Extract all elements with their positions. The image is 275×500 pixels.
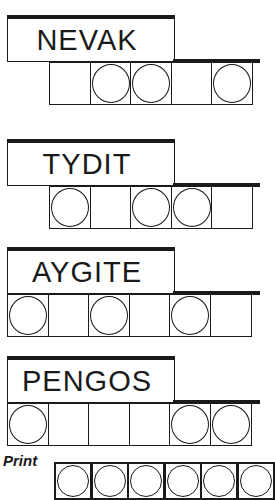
circle-icon bbox=[132, 188, 170, 227]
circle-icon bbox=[171, 296, 209, 335]
scrambled-word: TYDIT bbox=[43, 148, 140, 181]
circle-icon bbox=[213, 64, 251, 103]
circle-icon bbox=[240, 465, 272, 497]
circled-letter-cell[interactable] bbox=[169, 294, 211, 337]
circled-letter-cell[interactable] bbox=[90, 62, 132, 105]
circle-icon bbox=[9, 405, 47, 444]
scrambled-word-box: TYDIT bbox=[7, 139, 175, 186]
circled-letter-cell[interactable] bbox=[211, 62, 253, 105]
circle-icon bbox=[212, 405, 250, 444]
letter-cell[interactable] bbox=[49, 62, 91, 105]
circled-letter-cell[interactable] bbox=[130, 186, 172, 229]
answer-cell[interactable] bbox=[200, 462, 238, 500]
letter-cells bbox=[49, 62, 253, 105]
circled-letter-cell[interactable] bbox=[7, 403, 49, 446]
answer-cell[interactable] bbox=[127, 462, 165, 500]
answer-cell[interactable] bbox=[237, 462, 275, 500]
circle-icon bbox=[130, 465, 162, 497]
letter-cell[interactable] bbox=[90, 186, 132, 229]
circle-icon bbox=[173, 188, 211, 227]
letter-cells bbox=[7, 294, 252, 337]
letter-cell[interactable] bbox=[88, 403, 130, 446]
answer-cell[interactable] bbox=[164, 462, 202, 500]
scrambled-word: PENGOS bbox=[22, 365, 160, 398]
circle-icon bbox=[51, 188, 89, 227]
circled-letter-cell[interactable] bbox=[171, 186, 213, 229]
scrambled-word-box: AYGITE bbox=[7, 247, 175, 294]
letter-cell[interactable] bbox=[171, 62, 213, 105]
circle-icon bbox=[92, 64, 130, 103]
scrambled-word: NEVAK bbox=[36, 24, 145, 57]
letter-cell[interactable] bbox=[129, 403, 171, 446]
circle-icon bbox=[203, 465, 235, 497]
letter-cell[interactable] bbox=[48, 403, 90, 446]
circled-letter-cell[interactable] bbox=[88, 294, 130, 337]
scrambled-word-box: NEVAK bbox=[7, 15, 175, 62]
answer-cell[interactable] bbox=[91, 462, 129, 500]
circled-letter-cell[interactable] bbox=[210, 403, 252, 446]
circled-letter-cell[interactable] bbox=[7, 294, 49, 337]
circle-icon bbox=[57, 465, 89, 497]
answer-cells bbox=[54, 462, 275, 500]
circled-letter-cell[interactable] bbox=[169, 403, 211, 446]
letter-cell[interactable] bbox=[129, 294, 171, 337]
circled-letter-cell[interactable] bbox=[130, 62, 172, 105]
letter-cell[interactable] bbox=[211, 186, 253, 229]
letter-cells bbox=[7, 403, 252, 446]
letter-cell[interactable] bbox=[48, 294, 90, 337]
circle-icon bbox=[167, 465, 199, 497]
letter-cells bbox=[49, 186, 253, 229]
circle-icon bbox=[94, 465, 126, 497]
circle-icon bbox=[171, 405, 209, 444]
scrambled-word: AYGITE bbox=[32, 256, 150, 289]
circled-letter-cell[interactable] bbox=[49, 186, 91, 229]
letter-cell[interactable] bbox=[210, 294, 252, 337]
answer-cell[interactable] bbox=[54, 462, 92, 500]
circle-icon bbox=[9, 296, 47, 335]
circle-icon bbox=[90, 296, 128, 335]
circle-icon bbox=[132, 64, 170, 103]
print-label: Print bbox=[3, 452, 37, 469]
scrambled-word-box: PENGOS bbox=[7, 356, 175, 403]
